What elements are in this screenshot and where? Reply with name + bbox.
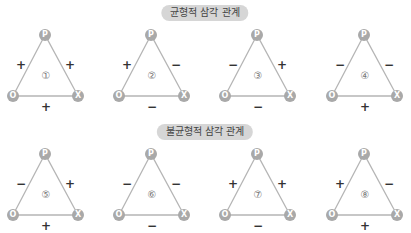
node-p: P xyxy=(358,148,370,160)
node-x: X xyxy=(72,209,84,221)
sign-px: − xyxy=(170,178,182,190)
node-o: O xyxy=(219,90,231,102)
node-p: P xyxy=(251,29,263,41)
sign-px: − xyxy=(383,178,395,190)
triangle-number: ① xyxy=(39,70,53,82)
sign-px: + xyxy=(276,178,288,190)
triangle-5: POX−++⑤ xyxy=(0,147,100,233)
sign-op: − xyxy=(334,59,346,71)
section-title: 불균형적 삼각 관계 xyxy=(157,124,253,140)
node-x: X xyxy=(178,90,190,102)
sign-op: − xyxy=(15,178,27,190)
triangle-number: ⑥ xyxy=(145,189,159,201)
triangle-number: ⑧ xyxy=(358,189,372,201)
node-p: P xyxy=(358,29,370,41)
triangle-2: POX+−−② xyxy=(106,28,206,118)
sign-ox: − xyxy=(252,220,264,232)
node-p: P xyxy=(39,29,51,41)
sign-px: + xyxy=(276,59,288,71)
sign-op: + xyxy=(121,59,133,71)
sign-op: − xyxy=(121,178,133,190)
triangle-number: ⑦ xyxy=(251,189,265,201)
sign-ox: + xyxy=(359,101,371,113)
section-title: 균형적 삼각 관계 xyxy=(161,5,248,21)
node-x: X xyxy=(284,90,296,102)
triangle-number: ⑤ xyxy=(39,189,53,201)
node-p: P xyxy=(251,148,263,160)
sign-ox: + xyxy=(40,101,52,113)
sign-ox: − xyxy=(146,101,158,113)
sign-ox: + xyxy=(40,220,52,232)
sign-op: − xyxy=(227,59,239,71)
node-x: X xyxy=(178,209,190,221)
node-p: P xyxy=(39,148,51,160)
node-o: O xyxy=(7,90,19,102)
sign-op: + xyxy=(227,178,239,190)
node-x: X xyxy=(391,209,403,221)
triangle-number: ② xyxy=(145,70,159,82)
triangle-7: POX++−⑦ xyxy=(212,147,312,233)
sign-px: + xyxy=(64,59,76,71)
sign-ox: − xyxy=(252,101,264,113)
triangle-6: POX−−−⑥ xyxy=(106,147,206,233)
node-o: O xyxy=(326,90,338,102)
node-o: O xyxy=(219,209,231,221)
node-x: X xyxy=(72,90,84,102)
sign-op: + xyxy=(15,59,27,71)
node-x: X xyxy=(284,209,296,221)
triangle-number: ④ xyxy=(358,70,372,82)
triangle-3: POX−+−③ xyxy=(212,28,312,118)
sign-px: − xyxy=(383,59,395,71)
sign-px: + xyxy=(64,178,76,190)
triangle-number: ③ xyxy=(251,70,265,82)
triangle-1: POX+++① xyxy=(0,28,100,118)
sign-ox: − xyxy=(146,220,158,232)
triangle-8: POX+−+⑧ xyxy=(319,147,411,233)
sign-ox: + xyxy=(359,220,371,232)
sign-op: + xyxy=(334,178,346,190)
node-o: O xyxy=(113,209,125,221)
node-o: O xyxy=(113,90,125,102)
node-o: O xyxy=(326,209,338,221)
triangle-4: POX−−+④ xyxy=(319,28,411,118)
sign-px: − xyxy=(170,59,182,71)
node-o: O xyxy=(7,209,19,221)
node-p: P xyxy=(145,148,157,160)
node-x: X xyxy=(391,90,403,102)
node-p: P xyxy=(145,29,157,41)
